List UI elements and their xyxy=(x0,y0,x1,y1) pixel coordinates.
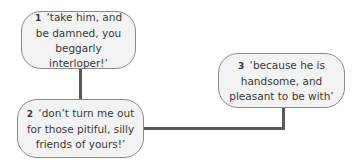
node-2-number: 2 xyxy=(27,109,33,119)
node-2: 2 ‘don’t turn me out for those pitiful, … xyxy=(17,99,144,158)
node-3-number: 3 xyxy=(238,61,244,71)
connector-3-2-horizontal xyxy=(143,127,285,130)
node-2-quote: ‘don’t turn me out for those pitiful, si… xyxy=(27,107,134,150)
node-1-text: 1 ‘take him, and be damned, you beggarly… xyxy=(30,10,127,71)
node-3: 3 ‘because he is handsome, and pleasant … xyxy=(218,53,345,108)
node-1: 1 ‘take him, and be damned, you beggarly… xyxy=(21,11,136,69)
node-1-quote: ‘take him, and be damned, you beggarly i… xyxy=(36,11,122,69)
node-1-number: 1 xyxy=(35,13,41,23)
node-2-text: 2 ‘don’t turn me out for those pitiful, … xyxy=(26,106,135,152)
node-3-text: 3 ‘because he is handsome, and pleasant … xyxy=(227,58,336,104)
node-3-quote: ‘because he is handsome, and pleasant to… xyxy=(229,59,333,102)
connector-1-2 xyxy=(79,69,82,100)
